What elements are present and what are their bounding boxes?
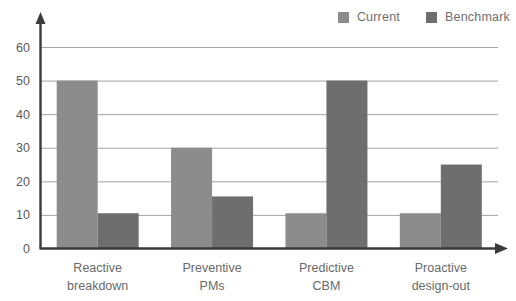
chart-legend: Current Benchmark (338, 10, 510, 24)
x-axis-arrow-icon (495, 243, 508, 254)
chart-canvas: 0102030405060 ReactivebreakdownPreventiv… (0, 0, 516, 301)
x-axis-category-label: breakdown (67, 279, 128, 293)
x-axis-category-label: Reactive (73, 261, 122, 275)
bar-chart: Current Benchmark 0102030405060 Reactive… (0, 0, 516, 301)
y-axis-arrow-icon (36, 12, 46, 24)
bar-series-group (57, 81, 482, 249)
x-axis-category-label: PMs (200, 279, 225, 293)
legend-entry-benchmark: Benchmark (426, 10, 510, 24)
y-axis-tick-label: 60 (16, 41, 30, 55)
y-axis-tick-label: 0 (23, 242, 30, 256)
y-axis-tick-label: 30 (16, 141, 30, 155)
bar-current-3 (400, 213, 441, 248)
bar-current-0 (57, 81, 98, 249)
bar-benchmark-2 (326, 81, 367, 249)
bar-current-2 (285, 213, 326, 248)
y-axis-tick-labels: 0102030405060 (16, 41, 30, 257)
legend-label-benchmark: Benchmark (445, 10, 510, 24)
legend-entry-current: Current (338, 10, 400, 24)
x-axis-category-label: Preventive (183, 261, 242, 275)
legend-swatch-current (338, 12, 349, 23)
y-axis-tick-label: 10 (16, 208, 30, 222)
bar-current-1 (171, 148, 212, 249)
bar-benchmark-0 (98, 213, 139, 248)
y-axis-tick-label: 20 (16, 175, 30, 189)
x-axis-category-label: design-out (412, 279, 471, 293)
x-axis-category-label: Predictive (299, 261, 354, 275)
x-axis-category-labels: ReactivebreakdownPreventivePMsPredictive… (67, 261, 470, 293)
gridlines (41, 48, 499, 216)
y-axis-tick-label: 50 (16, 74, 30, 88)
x-axis-category-label: Proactive (415, 261, 467, 275)
x-axis-category-label: CBM (313, 279, 341, 293)
legend-swatch-benchmark (426, 12, 437, 23)
y-axis-tick-label: 40 (16, 108, 30, 122)
legend-label-current: Current (357, 10, 400, 24)
bar-benchmark-3 (441, 165, 482, 249)
bar-benchmark-1 (212, 196, 253, 248)
